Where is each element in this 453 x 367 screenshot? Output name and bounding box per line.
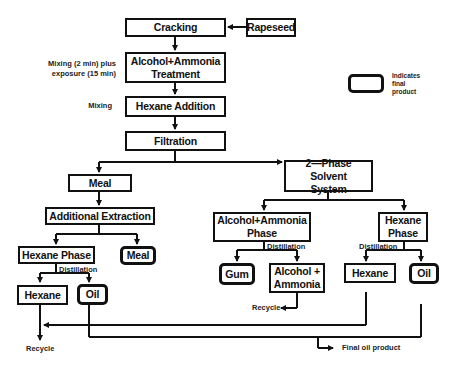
node-hexane-left: Hexane [17, 285, 68, 305]
node-label: Filtration [154, 135, 197, 148]
node-label-line2: Phase [388, 227, 418, 240]
annotation-line: exposure (15 min) [26, 69, 116, 79]
node-label-line2: Ammonia [274, 278, 320, 291]
node-oil-final-right: Oil [409, 263, 439, 284]
node-gum-final: Gum [219, 263, 255, 285]
legend-final-product-swatch [348, 74, 384, 93]
annotation-distillation-left: Distillation [59, 265, 97, 275]
node-two-phase-solvent-system: 2—Phase Solvent System [284, 160, 373, 192]
node-hexane-right: Hexane [344, 263, 396, 283]
node-label: Rapeseed [247, 21, 295, 34]
legend-line: product [392, 88, 420, 96]
node-label-line1: Alcohol+Ammonia [131, 55, 220, 68]
node-rapeseed: Rapeseed [246, 18, 296, 37]
node-alcohol-ammonia-phase: Alcohol+Ammonia Phase [213, 212, 311, 242]
node-additional-extraction: Additional Extraction [45, 207, 155, 225]
node-meal-final: Meal [120, 246, 156, 265]
annotation-mixing-exposure: Mixing (2 min) plus exposure (15 min) [26, 59, 116, 79]
node-label: Meal [127, 249, 150, 262]
node-label: Oil [86, 288, 99, 301]
node-label: Gum [225, 268, 248, 281]
node-hexane-phase-right: Hexane Phase [378, 212, 428, 242]
annotation-recycle-left: Recycle [26, 344, 54, 354]
node-label-line1: 2—Phase Solvent [286, 157, 371, 183]
node-hexane-phase-left: Hexane Phase [18, 246, 95, 264]
node-label: Hexane Addition [136, 100, 215, 113]
annotation-distillation-right: Distillation [359, 242, 397, 252]
node-label-line2: Treatment [151, 68, 199, 81]
node-label: Hexane [352, 267, 388, 280]
node-label: Additional Extraction [49, 210, 150, 223]
node-cracking: Cracking [125, 18, 226, 37]
node-label: Hexane [24, 289, 60, 302]
annotation-distillation-mid: Distillation [267, 242, 305, 252]
node-label-line2: Phase [247, 227, 277, 240]
legend-line: final [392, 80, 420, 88]
annotation-recycle-mid: Recycle [252, 303, 280, 313]
node-alcohol-ammonia-treatment: Alcohol+Ammonia Treatment [125, 52, 226, 83]
node-oil-final-left: Oil [77, 284, 108, 305]
node-label-line1: Alcohol+Ammonia [217, 214, 306, 227]
annotation-line: Mixing (2 min) plus [26, 59, 116, 69]
legend-line: Indicates [392, 72, 420, 80]
node-alcohol-ammonia-recovered: Alcohol + Ammonia [269, 263, 325, 293]
node-label-line1: Hexane [385, 214, 421, 227]
node-meal: Meal [68, 174, 132, 192]
annotation-mixing: Mixing [60, 101, 112, 111]
node-label: Cracking [154, 21, 197, 34]
annotation-final-oil-product: Final oil product [342, 343, 400, 353]
node-label-line2: System [310, 183, 346, 196]
node-hexane-addition: Hexane Addition [125, 96, 226, 117]
node-label-line1: Alcohol + [274, 265, 320, 278]
legend-text: Indicates final product [392, 72, 420, 96]
node-label: Hexane Phase [22, 249, 91, 262]
node-filtration: Filtration [125, 131, 226, 151]
node-label: Meal [89, 177, 112, 190]
node-label: Oil [417, 267, 430, 280]
